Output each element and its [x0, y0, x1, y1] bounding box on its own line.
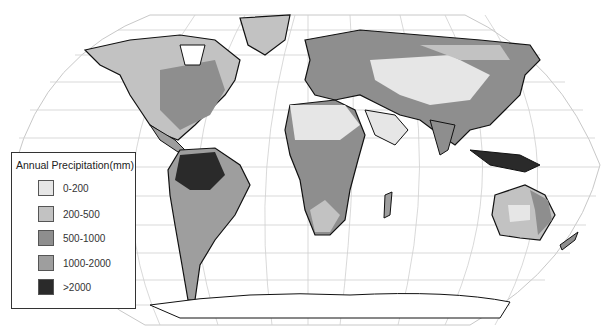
legend-label: 1000-2000	[63, 258, 111, 269]
legend-label: 0-200	[63, 183, 89, 194]
swatch	[38, 180, 54, 196]
swatch	[38, 230, 54, 246]
legend-label: >2000	[63, 282, 91, 293]
legend-item-1000-2000: 1000-2000	[38, 254, 111, 272]
legend-label: 200-500	[63, 209, 100, 220]
legend-label: 500-1000	[63, 233, 105, 244]
legend: Annual Precipitation(mm) 0-200 200-500 5…	[11, 152, 136, 309]
legend-item-over-2000: >2000	[38, 278, 91, 296]
legend-title: Annual Precipitation(mm)	[16, 159, 134, 171]
swatch	[38, 206, 54, 222]
legend-item-0-200: 0-200	[38, 179, 89, 197]
swatch	[38, 255, 54, 271]
legend-item-200-500: 200-500	[38, 205, 100, 223]
legend-item-500-1000: 500-1000	[38, 229, 105, 247]
swatch	[38, 279, 54, 295]
